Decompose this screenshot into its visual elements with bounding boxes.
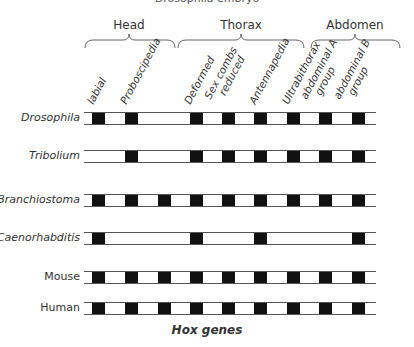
hox-gene-box <box>352 233 365 244</box>
hox-gene-box <box>287 113 300 124</box>
hox-gene-box <box>158 195 171 206</box>
gene-label-line: labial <box>85 76 108 106</box>
hox-gene-box <box>158 272 171 283</box>
hox-gene-box <box>190 303 203 314</box>
gene-label: labial <box>85 76 108 106</box>
hox-gene-box <box>254 195 267 206</box>
hox-gene-box <box>287 151 300 162</box>
hox-gene-box <box>92 303 105 314</box>
organism-label-human: Human <box>40 301 80 314</box>
hox-gene-box <box>287 272 300 283</box>
hox-gene-box <box>190 113 203 124</box>
organism-label-branchiostoma: Branchiostoma <box>0 193 80 206</box>
hox-gene-box <box>222 272 235 283</box>
hox-gene-box <box>319 272 332 283</box>
hox-gene-box <box>190 195 203 206</box>
hox-gene-box <box>125 195 138 206</box>
hox-cluster-track <box>84 232 376 245</box>
hox-gene-box <box>352 303 365 314</box>
hox-gene-box <box>254 272 267 283</box>
hox-gene-box <box>92 113 105 124</box>
hox-gene-box <box>254 151 267 162</box>
hox-gene-box <box>319 195 332 206</box>
hox-gene-box <box>352 113 365 124</box>
hox-gene-box <box>125 113 138 124</box>
organism-label-mouse: Mouse <box>44 270 80 283</box>
hox-gene-box <box>125 303 138 314</box>
hox-gene-box <box>352 151 365 162</box>
hox-gene-box <box>158 303 171 314</box>
organism-label-drosophila: Drosophila <box>21 111 80 124</box>
hox-gene-box <box>254 233 267 244</box>
hox-gene-box <box>190 151 203 162</box>
hox-gene-box <box>222 303 235 314</box>
axis-title-hox-genes: Hox genes <box>0 323 414 337</box>
hox-cluster-track <box>84 112 376 125</box>
hox-cluster-track <box>84 302 376 315</box>
hox-cluster-track <box>84 150 376 163</box>
hox-gene-box <box>287 195 300 206</box>
hox-gene-box <box>190 272 203 283</box>
hox-gene-box <box>319 113 332 124</box>
hox-gene-box <box>222 113 235 124</box>
hox-cluster-track <box>84 194 376 207</box>
hox-gene-box <box>287 303 300 314</box>
hox-gene-box <box>352 272 365 283</box>
hox-gene-box <box>222 195 235 206</box>
hox-gene-box <box>222 151 235 162</box>
hox-gene-box <box>254 113 267 124</box>
hox-gene-box <box>92 272 105 283</box>
hox-gene-box <box>92 233 105 244</box>
hox-gene-box <box>92 195 105 206</box>
hox-gene-box <box>319 151 332 162</box>
hox-gene-box <box>254 303 267 314</box>
hox-gene-box <box>125 272 138 283</box>
organism-label-tribolium: Tribolium <box>29 149 80 162</box>
hox-gene-box <box>319 303 332 314</box>
region-label-head: Head <box>113 18 144 32</box>
hox-gene-box <box>352 195 365 206</box>
region-label-thorax: Thorax <box>220 18 262 32</box>
region-label-abdomen: Abdomen <box>326 18 383 32</box>
hox-gene-box <box>190 233 203 244</box>
hox-gene-box <box>125 151 138 162</box>
organism-label-caenorhabditis: Caenorhabditis <box>0 231 80 244</box>
hox-cluster-track <box>84 271 376 284</box>
